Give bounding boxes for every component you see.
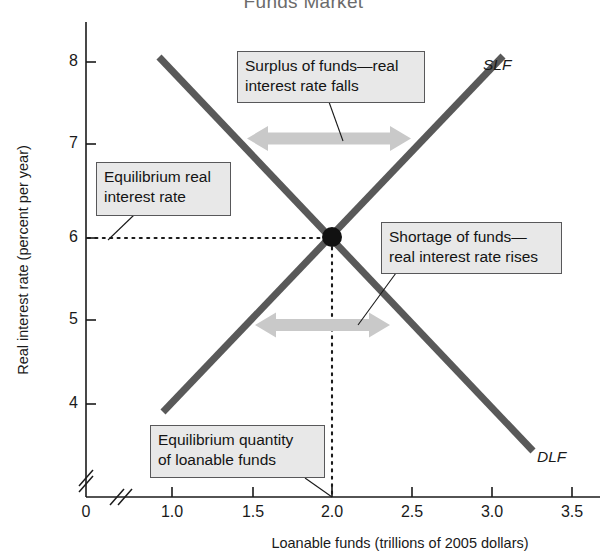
y-tick-label-6: 6: [52, 228, 78, 246]
equilibrium-point-marker[interactable]: [322, 227, 342, 247]
y-axis-title: Real interest rate (percent per year): [15, 90, 31, 430]
surplus-callout-line1: Surplus of funds—real: [245, 56, 417, 76]
equilibrium-rate-callout-line1: Equilibrium real: [104, 167, 223, 187]
x-tick-label-2-5: 2.5: [392, 503, 432, 521]
x-tick-label-2-0: 2.0: [312, 503, 352, 521]
equilibrium-quantity-callout-box: Equilibrium quantity of loanable funds: [150, 425, 325, 478]
equilibrium-rate-callout-leader: [108, 215, 134, 240]
supply-curve-label: SLF: [483, 56, 511, 74]
equilibrium-quantity-callout-line1: Equilibrium quantity: [158, 430, 317, 450]
equilibrium-quantity-callout-line2: of loanable funds: [158, 450, 317, 470]
surplus-callout-box: Surplus of funds—real interest rate fall…: [237, 51, 425, 103]
y-axis-ticks: [86, 62, 96, 404]
y-tick-label-7: 7: [52, 134, 78, 152]
y-tick-label-4: 4: [52, 394, 78, 412]
x-tick-label-3-0: 3.0: [472, 503, 512, 521]
x-tick-label-1-5: 1.5: [233, 503, 273, 521]
shortage-callout-line1: Shortage of funds—: [389, 227, 554, 247]
equilibrium-rate-callout-box: Equilibrium real interest rate: [96, 162, 231, 216]
y-tick-label-5: 5: [52, 310, 78, 328]
x-tick-label-0: 0: [66, 503, 106, 521]
page-title: Funds Market: [0, 0, 607, 13]
shortage-callout-line2: real interest rate rises: [389, 247, 554, 267]
surplus-double-arrow: [247, 126, 411, 151]
loanable-funds-market-figure: Funds Market Real interest rate (percent…: [0, 0, 607, 558]
shortage-double-arrow: [255, 313, 390, 338]
x-tick-label-1-0: 1.0: [152, 503, 192, 521]
surplus-callout-line2: interest rate falls: [245, 76, 417, 96]
x-axis-title: Loanable funds (trillions of 2005 dollar…: [200, 535, 600, 551]
y-tick-label-8: 8: [52, 52, 78, 70]
demand-curve-label: DLF: [537, 448, 566, 466]
equilibrium-quantity-callout-leader: [305, 478, 332, 497]
equilibrium-rate-callout-line2: interest rate: [104, 187, 223, 207]
x-axis-ticks: [172, 487, 572, 497]
shortage-callout-box: Shortage of funds— real interest rate ri…: [381, 222, 562, 274]
x-tick-label-3-5: 3.5: [552, 503, 592, 521]
